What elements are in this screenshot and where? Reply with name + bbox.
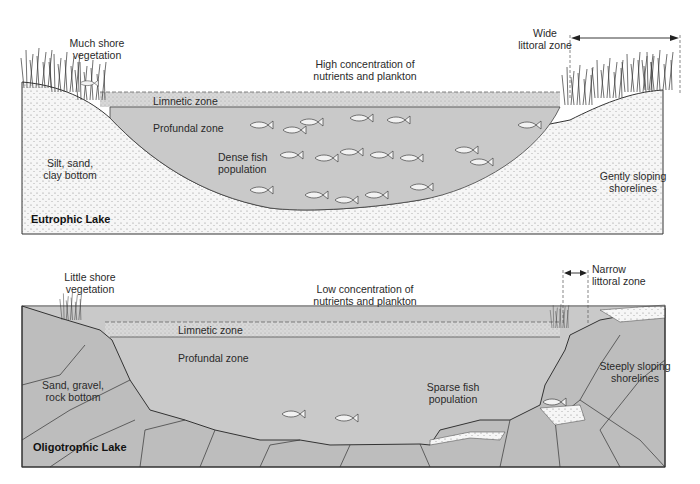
oligotrophic-shore-vegetation-label: Little shore vegetation xyxy=(50,271,130,295)
eutrophic-profundal-label: Profundal zone xyxy=(153,122,224,134)
oligotrophic-bottom-label: Sand, gravel, rock bottom xyxy=(38,379,108,403)
eutrophic-fish-label: Dense fish population xyxy=(218,151,268,175)
oligotrophic-profundal-label: Profundal zone xyxy=(178,352,249,364)
oligotrophic-nutrients-label: Low concentration of nutrients and plank… xyxy=(290,283,440,307)
eutrophic-shore-vegetation-label: Much shore vegetation xyxy=(62,37,132,61)
eutrophic-limnetic-label: Limnetic zone xyxy=(153,95,218,107)
eutrophic-title: Eutrophic Lake xyxy=(31,213,110,225)
eutrophic-littoral-label: Wide littoral zone xyxy=(510,27,580,51)
eutrophic-shoreline-label: Gently sloping shorelines xyxy=(593,170,673,194)
oligotrophic-littoral-label: Narrow littoral zone xyxy=(592,263,646,287)
oligotrophic-fish-label: Sparse fish population xyxy=(418,381,488,405)
eutrophic-bottom-label: Silt, sand, clay bottom xyxy=(38,157,102,181)
oligotrophic-shoreline-label: Steeply sloping shorelines xyxy=(595,360,675,384)
eutrophic-nutrients-label: High concentration of nutrients and plan… xyxy=(290,58,440,82)
oligotrophic-limnetic-label: Limnetic zone xyxy=(178,324,243,336)
oligotrophic-title: Oligotrophic Lake xyxy=(33,441,127,453)
